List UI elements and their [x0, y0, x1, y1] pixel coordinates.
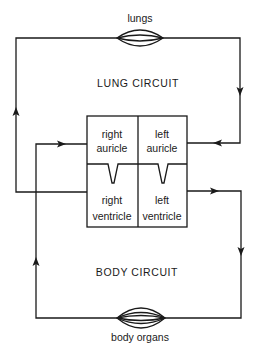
left-ventricle-label-2: ventricle: [142, 210, 181, 222]
right-auricle-label-1: right: [102, 128, 123, 140]
lungs-icon: [117, 30, 163, 46]
right-valve: [87, 164, 138, 183]
left-ventricle-label-1: left: [155, 194, 169, 206]
body-circuit-label: BODY CIRCUIT: [96, 266, 178, 278]
right-ventricle-label-2: ventricle: [92, 210, 131, 222]
right-auricle-label-2: auricle: [97, 142, 128, 154]
left-auricle-label-1: left: [155, 128, 169, 140]
body-organs-label: body organs: [111, 331, 169, 343]
right-ventricle-label-1: right: [102, 194, 123, 206]
lungs-label: lungs: [127, 12, 152, 24]
lung-circuit-loop: [16, 38, 240, 192]
left-auricle-label-2: auricle: [147, 142, 178, 154]
flow-arrows: [13, 87, 245, 266]
body-organs-icon: [117, 308, 165, 328]
lung-circuit-label: LUNG CIRCUIT: [97, 77, 179, 89]
circulation-diagram: lungs LUNG CIRCUIT right auricle left au…: [0, 0, 258, 354]
left-valve: [138, 164, 187, 183]
